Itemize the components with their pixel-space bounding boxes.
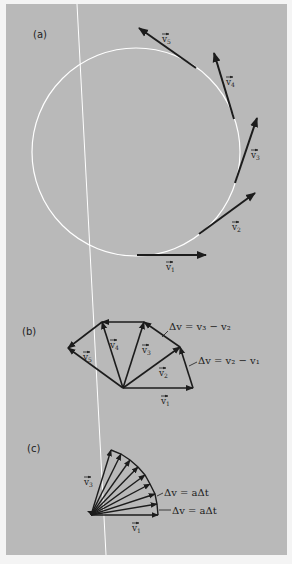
vector-b-v2 — [123, 347, 180, 388]
svg-text:v3: v3 — [250, 150, 260, 161]
svg-text:v5: v5 — [82, 352, 92, 363]
svg-text:v4: v4 — [225, 77, 235, 88]
svg-text:v1: v1 — [131, 523, 141, 534]
part-a-label: (a) — [33, 29, 47, 40]
vector-v2-arrow — [199, 193, 255, 234]
svg-text:v1: v1 — [160, 396, 170, 407]
delta-v-54 — [68, 322, 102, 348]
equation-dv-32: Δv = v₃ − v₂ — [169, 321, 231, 332]
crease-line — [77, 4, 106, 555]
svg-text:v1: v1 — [165, 262, 175, 273]
vector-v5-label: v5 — [161, 34, 171, 45]
part-c-label: (c) — [27, 443, 40, 454]
svg-text:v5: v5 — [161, 34, 171, 45]
vector-b-v4 — [102, 322, 123, 388]
svg-text:v3: v3 — [141, 345, 151, 356]
equation-dv-21: Δv = v₂ − v₁ — [198, 355, 260, 366]
vector-b-v3 — [123, 322, 144, 388]
equation-dv-adt-2: Δv = aΔt — [172, 505, 217, 516]
svg-text:v2: v2 — [231, 222, 241, 233]
leader-line — [189, 362, 197, 366]
vector-v3-label: v3 — [250, 150, 260, 161]
leader-line — [157, 493, 163, 496]
svg-text:v2: v2 — [158, 368, 168, 379]
equation-dv-adt-1: Δv = aΔt — [164, 487, 209, 498]
vector-v4-label: v4 — [225, 77, 235, 88]
part-b: (b) v1 v2 v3 v4 v5 Δv = v₃ − v₂ Δv = v — [22, 321, 260, 407]
circular-path — [32, 48, 240, 256]
vector-v1-label: v1 — [165, 262, 175, 273]
part-b-label: (b) — [22, 326, 36, 337]
part-c: (c) v1 v3 Δv = aΔt Δv = aΔt — [27, 443, 217, 534]
velocity-diagram: (a) v1 v2 v3 v4 v5 — [0, 0, 292, 564]
svg-text:v4: v4 — [109, 340, 119, 351]
delta-v-21 — [180, 347, 193, 388]
svg-text:v3: v3 — [83, 477, 93, 488]
vector-v2-label: v2 — [231, 222, 241, 233]
part-a: (a) v1 v2 v3 v4 v5 — [32, 28, 260, 273]
